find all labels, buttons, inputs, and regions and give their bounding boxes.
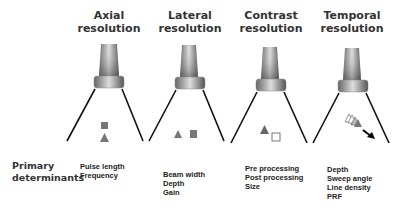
title-temporal: Temporal resolution [312, 9, 392, 35]
title-line: Temporal [312, 9, 392, 22]
determinant-item: Beam width [163, 170, 205, 179]
determinant-item: Post processing [245, 173, 303, 182]
determinant-item: Line density [327, 183, 372, 192]
determinant-item: Gain [163, 188, 205, 197]
triangle-target [260, 125, 269, 134]
title-lateral: Lateral resolution [150, 9, 230, 35]
square-target [190, 130, 197, 138]
determinant-item: Depth [327, 165, 372, 174]
determinant-item: Pulse length [80, 162, 125, 171]
determinant-item: PRF [327, 192, 372, 201]
determinant-item: Frequency [80, 171, 125, 180]
title-line: resolution [312, 22, 392, 35]
determinants-temporal: Depth Sweep angle Line density PRF [327, 165, 372, 201]
determinants-lateral: Beam width Depth Gain [163, 170, 205, 197]
determinants-axial: Pulse length Frequency [80, 162, 125, 180]
determinants-contrast: Pre processing Post processing Size [245, 164, 303, 191]
title-line: resolution [150, 22, 230, 35]
probe-axial [67, 44, 143, 142]
triangle-target [174, 130, 182, 138]
triangle-target [100, 133, 109, 142]
row-label-line: Primary [12, 160, 84, 172]
determinant-item: Depth [163, 179, 205, 188]
square-target [101, 122, 108, 129]
determinant-item: Size [245, 182, 303, 191]
title-line: Lateral [150, 9, 230, 22]
row-label-primary-determinants: Primary determinants [12, 160, 84, 184]
probe-lateral [149, 45, 224, 141]
probe-temporal [313, 48, 389, 143]
title-line: resolution [231, 22, 311, 35]
title-line: Axial [69, 9, 149, 22]
title-contrast: Contrast resolution [231, 9, 311, 35]
determinant-item: Sweep angle [327, 174, 372, 183]
title-line: Contrast [231, 9, 311, 22]
determinant-item: Pre processing [245, 164, 303, 173]
probe-contrast [231, 47, 307, 143]
square-target [272, 133, 280, 141]
title-axial: Axial resolution [69, 9, 149, 35]
row-label-line: determinants [12, 172, 84, 184]
title-line: resolution [69, 22, 149, 35]
